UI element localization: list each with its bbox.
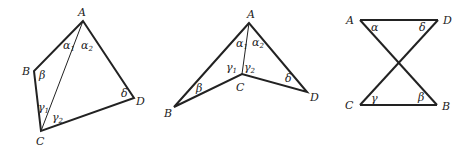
vertex-label-b: B: [163, 107, 172, 120]
angle-label-delta: δ: [419, 21, 426, 34]
vertex-label-b: B: [441, 100, 450, 113]
angle-label-alpha1: α1: [63, 39, 75, 53]
vertex-label-d: D: [442, 14, 452, 27]
angle-label-gamma2: γ2: [244, 61, 256, 75]
angle-label-gamma2: γ2: [52, 111, 64, 125]
figure-concave-quadrilateral: A B C D α1 α2 γ1 γ2 β δ: [163, 8, 319, 120]
vertex-label-c: C: [236, 81, 245, 94]
vertex-label-c: C: [36, 135, 45, 148]
angle-label-gamma1: γ1: [226, 61, 237, 75]
vertex-label-a: A: [345, 14, 354, 27]
angle-label-beta: β: [38, 69, 45, 82]
angle-label-beta: β: [417, 91, 424, 104]
vertex-label-d: D: [135, 95, 145, 108]
angle-label-gamma: γ: [371, 92, 378, 105]
vertex-label-c: C: [345, 99, 354, 112]
figure-crossed-quadrilateral: A D C B α δ γ β: [345, 14, 452, 113]
angle-label-gamma1: γ1: [38, 101, 49, 115]
quadrilateral-figures: A B C D α1 α2 β γ1 γ2 δ A B C D α1 α2 γ1…: [0, 0, 469, 149]
angle-label-alpha2: α2: [81, 39, 93, 53]
figure-convex-quadrilateral: A B C D α1 α2 β γ1 γ2 δ: [21, 6, 145, 148]
vertex-label-b: B: [21, 65, 30, 78]
angle-label-delta: δ: [121, 87, 128, 100]
vertex-label-a: A: [77, 6, 86, 19]
angle-label-beta: β: [195, 82, 202, 95]
vertex-label-d: D: [309, 91, 319, 104]
angle-label-alpha: α: [371, 21, 379, 34]
quadrilateral-outline: [174, 23, 307, 107]
angle-label-alpha1: α1: [236, 37, 248, 51]
diagram-svg: A B C D α1 α2 β γ1 γ2 δ A B C D α1 α2 γ1…: [0, 0, 469, 149]
angle-label-delta: δ: [285, 72, 292, 85]
vertex-label-a: A: [246, 8, 255, 21]
